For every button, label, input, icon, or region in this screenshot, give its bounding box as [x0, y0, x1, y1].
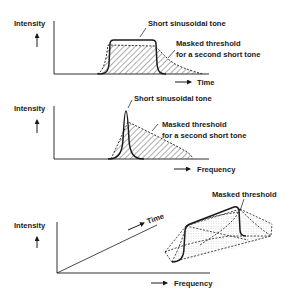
time-axis — [57, 225, 157, 273]
masked-label-line2: for a second short tone — [176, 50, 260, 59]
panel-time-domain: Intensity Short sinusoidal tone Masked t… — [14, 19, 260, 87]
x-axis-label: Frequency — [174, 279, 213, 288]
tone-leader-line — [128, 100, 132, 108]
x-axis-label: Time — [197, 78, 215, 87]
masked-label-line1: Masked threshold — [176, 39, 241, 48]
y-axis-label: Intensity — [14, 221, 46, 230]
tone-label: Short sinusoidal tone — [148, 19, 226, 28]
panel-frequency-domain: Intensity Short sinusoidal tone Masked t… — [14, 94, 246, 174]
tone-leader-line — [140, 28, 146, 37]
masked-label-line2: for a second short tone — [162, 131, 246, 140]
masking-diagram: Intensity Short sinusoidal tone Masked t… — [0, 0, 303, 305]
x-axis-label: Frequency — [197, 165, 236, 174]
z-axis-label: Time — [146, 211, 166, 225]
y-axis-label: Intensity — [14, 104, 46, 113]
tone-label: Short sinusoidal tone — [134, 94, 212, 103]
masked-leader-line — [240, 199, 244, 211]
masked-leader-line — [168, 50, 175, 58]
masked-label: Masked threshold — [212, 190, 277, 199]
masked-label-line1: Masked threshold — [162, 120, 227, 129]
masked-leader-line — [152, 124, 158, 131]
y-axis-label: Intensity — [14, 19, 46, 28]
time-arrow-icon — [128, 223, 144, 230]
panel-time-frequency: Intensity Time Masked threshold Frequenc… — [14, 190, 277, 288]
